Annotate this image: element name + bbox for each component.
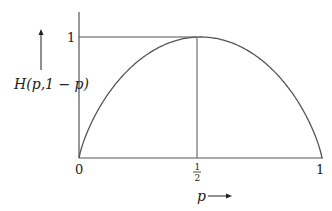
y-axis-label: H(p,1 − p) [13,76,89,92]
entropy-curve [79,37,322,158]
y-tick-1: 1 [67,30,75,45]
x-tick-half-denominator: 2 [195,173,201,183]
x-tick-half: 1 2 [193,162,201,183]
x-axis-label: p [197,188,206,204]
x-tick-0: 0 [75,162,83,177]
x-tick-half-numerator: 1 [195,162,201,172]
up-arrow-icon [39,29,44,70]
entropy-chart: H(p,1 − p) 1 0 1 2 1 p [0,0,332,211]
right-arrow-icon [208,194,232,199]
x-tick-1: 1 [316,162,324,177]
